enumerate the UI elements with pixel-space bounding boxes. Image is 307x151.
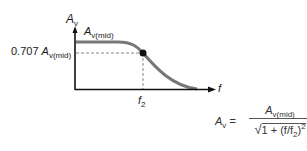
cutoff-frequency-label: f2 — [138, 95, 146, 109]
x-axis-arrow-icon — [208, 87, 216, 93]
response-curve — [76, 42, 197, 89]
equation-numerator: Av(mid) — [249, 103, 307, 117]
equation-denominator: √1 + (f/f2)2 — [249, 120, 307, 142]
y-axis-label: Av — [66, 13, 78, 28]
midband-gain-label: Av(mid) — [84, 26, 114, 40]
cutoff-point — [140, 50, 147, 57]
equation-lhs: Av = — [215, 115, 236, 130]
equation-fraction: Av(mid) √1 + (f/f2)2 — [249, 103, 307, 142]
cutoff-level-label: 0.707 Av(mid) — [11, 46, 71, 60]
x-axis-label: f — [218, 83, 221, 94]
